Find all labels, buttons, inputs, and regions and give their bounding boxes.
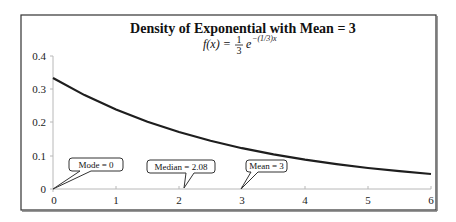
x-tick-label: 3 (239, 194, 245, 206)
y-tick-label: 0.2 (32, 116, 46, 128)
formula-lhs: f(x) = (203, 37, 231, 51)
chart-title: Density of Exponential with Mean = 3 (130, 21, 356, 36)
y-tick-label: 0.3 (32, 83, 46, 95)
x-tick-label: 1 (113, 194, 119, 206)
y-tick-label: 0 (41, 183, 47, 195)
x-tick-label: 6 (428, 194, 434, 206)
formula-numerator: 1 (237, 34, 242, 45)
y-tick-label: 0.1 (32, 150, 46, 162)
chart: Density of Exponential with Mean = 3 f(x… (0, 0, 456, 222)
x-tick-label: 0 (51, 194, 57, 206)
x-tick-label: 4 (302, 194, 308, 206)
callout-mode-label: Mode = 0 (78, 160, 114, 170)
y-tick-label: 0.4 (32, 50, 46, 62)
x-tick-label: 2 (176, 194, 182, 206)
callout-median-label: Median = 2.08 (155, 162, 208, 172)
x-tick-label: 5 (365, 194, 371, 206)
formula-exponent: −(1/3)x (252, 34, 277, 43)
callout-mean-label: Mean = 3 (249, 161, 284, 171)
formula-denominator: 3 (237, 45, 242, 56)
